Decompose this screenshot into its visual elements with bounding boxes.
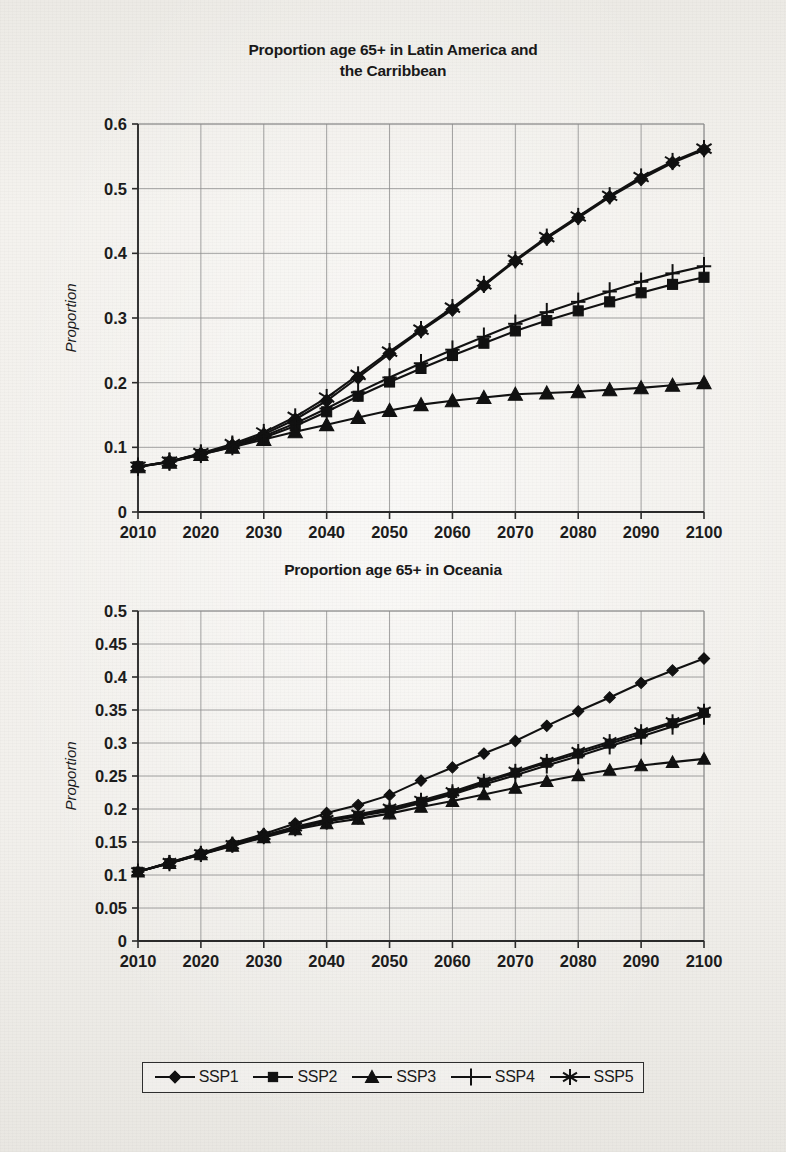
x-tick-label: 2010 bbox=[120, 952, 157, 970]
legend-swatch-diamond-icon bbox=[153, 1067, 197, 1087]
diamond-glyph bbox=[541, 720, 552, 731]
series-line-SSP3 bbox=[138, 383, 704, 467]
y-tick-label: 0 bbox=[118, 932, 127, 950]
x-tick-label: 2020 bbox=[183, 952, 220, 970]
series-SSP1 bbox=[132, 143, 711, 473]
series-SSP1 bbox=[132, 653, 709, 877]
legend-label: SSP4 bbox=[494, 1068, 535, 1086]
series-line-SSP1 bbox=[138, 150, 704, 467]
y-tick-label: 0.3 bbox=[104, 309, 127, 327]
y-tick-label: 0.4 bbox=[104, 668, 128, 686]
series-SSP3 bbox=[131, 375, 711, 472]
x-tick-label: 2030 bbox=[245, 523, 282, 541]
x-tick-label: 2090 bbox=[623, 523, 660, 541]
legend-label: SSP3 bbox=[395, 1068, 436, 1086]
legend-swatch-plus-icon bbox=[449, 1067, 493, 1087]
y-tick-label: 0.5 bbox=[104, 602, 127, 620]
marker-square-legend bbox=[269, 1072, 278, 1081]
marker-diamond-SSP1 bbox=[573, 706, 584, 717]
square-glyph bbox=[269, 1072, 278, 1081]
diamond-glyph bbox=[698, 653, 709, 664]
chart-block-oceania: Proportion age 65+ in Oceania 00.050.10.… bbox=[0, 560, 786, 1020]
y-tick-label: 0.6 bbox=[104, 115, 127, 133]
x-tick-label: 2050 bbox=[371, 952, 408, 970]
x-tick-label: 2070 bbox=[497, 952, 534, 970]
diamond-glyph bbox=[415, 775, 426, 786]
marker-diamond-SSP1 bbox=[541, 720, 552, 731]
chart1-plot: 00.10.20.30.40.50.6201020202030204020502… bbox=[0, 82, 786, 542]
x-tick-label: 2080 bbox=[560, 523, 597, 541]
x-tick-label: 2020 bbox=[183, 523, 220, 541]
x-tick-label: 2030 bbox=[245, 952, 282, 970]
y-tick-label: 0.45 bbox=[95, 635, 127, 653]
series-line-SSP5 bbox=[138, 711, 704, 871]
y-axis-label: Proportion bbox=[62, 741, 79, 810]
x-tick-label: 2040 bbox=[308, 523, 345, 541]
chart-block-latin-america: Proportion age 65+ in Latin America and … bbox=[0, 40, 786, 550]
marker-plus-legend bbox=[464, 1068, 477, 1085]
chart1-title: Proportion age 65+ in Latin America and … bbox=[0, 40, 786, 82]
x-tick-label: 2090 bbox=[623, 952, 660, 970]
diamond-glyph bbox=[169, 1071, 181, 1083]
y-tick-label: 0.4 bbox=[104, 244, 128, 262]
y-tick-label: 0.3 bbox=[104, 734, 127, 752]
marker-diamond-SSP1 bbox=[698, 653, 709, 664]
y-axis-ticks: 00.10.20.30.40.50.6 bbox=[104, 115, 138, 521]
legend-swatch-triangle-icon bbox=[350, 1067, 394, 1087]
marker-diamond-SSP1 bbox=[384, 789, 395, 800]
chart1-title-line-1: Proportion age 65+ in Latin America and bbox=[150, 40, 636, 61]
x-tick-label: 2100 bbox=[686, 523, 723, 541]
y-tick-label: 0.2 bbox=[104, 800, 127, 818]
legend-swatch-square-icon bbox=[251, 1067, 295, 1087]
diamond-glyph bbox=[510, 735, 521, 746]
chart2-title-line-1: Proportion age 65+ in Oceania bbox=[150, 560, 636, 581]
legend-item-ssp1: SSP1 bbox=[153, 1067, 239, 1087]
y-axis-label: Proportion bbox=[62, 283, 79, 352]
chart2-plot: 00.050.10.150.20.250.30.350.40.450.52010… bbox=[0, 581, 786, 1001]
x-tick-label: 2080 bbox=[560, 952, 597, 970]
series-line-SSP1 bbox=[138, 658, 704, 871]
y-tick-label: 0.1 bbox=[104, 866, 127, 884]
legend-box: SSP1SSP2SSP3SSP4SSP5 bbox=[142, 1062, 645, 1093]
diamond-glyph bbox=[604, 692, 615, 703]
legend-item-ssp3: SSP3 bbox=[350, 1067, 436, 1087]
marker-diamond-SSP1 bbox=[667, 665, 678, 676]
legend-label: SSP5 bbox=[593, 1068, 634, 1086]
marker-diamond-SSP1 bbox=[604, 692, 615, 703]
legend-swatch-asterisk-icon bbox=[548, 1067, 592, 1087]
y-tick-label: 0.5 bbox=[104, 180, 127, 198]
series-SSP5 bbox=[130, 140, 711, 475]
y-tick-label: 0.15 bbox=[95, 833, 127, 851]
x-tick-label: 2060 bbox=[434, 952, 471, 970]
x-tick-label: 2070 bbox=[497, 523, 534, 541]
x-tick-label: 2050 bbox=[371, 523, 408, 541]
y-tick-label: 0.05 bbox=[95, 899, 127, 917]
marker-diamond-SSP1 bbox=[415, 775, 426, 786]
series-SSP5 bbox=[131, 704, 710, 880]
diamond-glyph bbox=[447, 762, 458, 773]
chart-legend: SSP1SSP2SSP3SSP4SSP5 bbox=[0, 1062, 786, 1093]
series-SSP4 bbox=[131, 257, 711, 476]
y-tick-label: 0.25 bbox=[95, 767, 127, 785]
y-tick-label: 0.1 bbox=[104, 438, 127, 456]
series-line-SSP5 bbox=[138, 148, 704, 466]
x-axis-ticks: 2010202020302040205020602070208020902100 bbox=[120, 512, 723, 541]
marker-diamond-legend bbox=[169, 1071, 181, 1083]
legend-item-ssp4: SSP4 bbox=[449, 1067, 535, 1087]
legend-item-ssp5: SSP5 bbox=[548, 1067, 634, 1087]
y-tick-label: 0 bbox=[118, 503, 127, 521]
legend-label: SSP1 bbox=[198, 1068, 239, 1086]
legend-item-ssp2: SSP2 bbox=[251, 1067, 337, 1087]
marker-diamond-SSP1 bbox=[510, 735, 521, 746]
diamond-glyph bbox=[667, 665, 678, 676]
y-tick-label: 0.35 bbox=[95, 701, 127, 719]
diamond-glyph bbox=[384, 789, 395, 800]
marker-diamond-SSP1 bbox=[478, 748, 489, 759]
series-SSP3 bbox=[132, 753, 710, 877]
gridlines bbox=[138, 124, 704, 512]
legend-label: SSP2 bbox=[296, 1068, 337, 1086]
x-axis-ticks: 2010202020302040205020602070208020902100 bbox=[120, 941, 723, 970]
y-axis-ticks: 00.050.10.150.20.250.30.350.40.450.5 bbox=[95, 602, 138, 950]
y-tick-label: 0.2 bbox=[104, 374, 127, 392]
x-tick-label: 2060 bbox=[434, 523, 471, 541]
